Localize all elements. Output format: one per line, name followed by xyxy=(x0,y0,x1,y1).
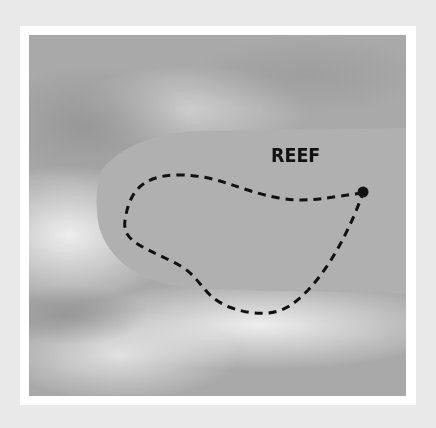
reef-label: REEF xyxy=(271,144,320,166)
reef-map: REEF xyxy=(29,35,406,396)
start-point xyxy=(358,187,369,198)
map-graphic xyxy=(29,35,406,396)
